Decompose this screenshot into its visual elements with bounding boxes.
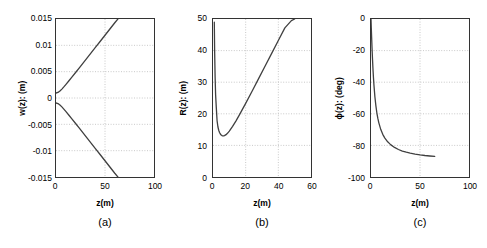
ytick-b-0: 50: [175, 14, 207, 23]
ytick-b-5: 0: [175, 174, 207, 183]
gridlines-a: [56, 19, 154, 177]
xtick-a-2: 100: [148, 182, 162, 191]
curve-c: [371, 19, 435, 156]
curve-b: [214, 19, 294, 136]
plot-canvas-b: [213, 19, 311, 177]
xtick-c-0: 0: [368, 182, 373, 191]
subplot-b: 50 40 30 20 10 0 0 20 40 60 z(m) R(z): (…: [165, 0, 325, 248]
caption-c: (c): [414, 217, 427, 228]
ytick-a-0: 0.015: [8, 14, 52, 23]
ytick-c-1: -20: [329, 46, 365, 55]
ytick-a-6: -0.015: [8, 174, 52, 183]
caption-b: (b): [255, 217, 268, 228]
yaxis-label-c: ϕ(z): (deg): [335, 58, 344, 138]
ytick-a-4: -0.005: [8, 120, 52, 129]
subplot-c: 0 -20 -40 -60 -80 -100 0 50 100 z(m) ϕ(z…: [325, 0, 487, 248]
gaussian-beam-figure: 0.015 0.01 0.005 0 -0.005 -0.01 -0.015 0…: [0, 0, 487, 248]
ytick-b-4: 10: [175, 142, 207, 151]
xtick-b-0: 0: [210, 182, 215, 191]
xaxis-label-a: z(m): [96, 199, 113, 208]
ytick-b-1: 40: [175, 46, 207, 55]
plot-area-b: [212, 18, 312, 178]
caption-a: (a): [98, 217, 111, 228]
xtick-b-2: 40: [274, 182, 283, 191]
curve-a-upper-line: [56, 19, 119, 93]
xtick-b-1: 20: [241, 182, 250, 191]
ytick-a-1: 0.01: [8, 40, 52, 49]
plot-area-a: [55, 18, 155, 178]
plot-canvas-c: [371, 19, 469, 177]
ytick-c-0: 0: [329, 14, 365, 23]
ytick-c-5: -100: [329, 174, 365, 183]
ytick-a-5: -0.01: [8, 147, 52, 156]
ytick-c-4: -80: [329, 142, 365, 151]
yaxis-label-a: w(z): (m): [18, 58, 27, 138]
gridlines-b: [213, 19, 311, 177]
xtick-c-1: 50: [415, 182, 424, 191]
yaxis-label-b: R(z): (m): [179, 58, 188, 138]
plot-area-c: [370, 18, 470, 178]
xtick-c-2: 100: [463, 182, 477, 191]
curve-a-lower-line: [56, 103, 119, 177]
xaxis-label-c: z(m): [411, 199, 428, 208]
xaxis-label-b: z(m): [253, 199, 270, 208]
xtick-a-0: 0: [53, 182, 58, 191]
ytick-a-3: 0: [8, 94, 52, 103]
subplot-a: 0.015 0.01 0.005 0 -0.005 -0.01 -0.015 0…: [0, 0, 165, 248]
xtick-a-1: 50: [100, 182, 109, 191]
ytick-a-2: 0.005: [8, 67, 52, 76]
xtick-b-3: 60: [307, 182, 316, 191]
plot-canvas-a: [56, 19, 154, 177]
gridlines-c: [371, 19, 469, 177]
